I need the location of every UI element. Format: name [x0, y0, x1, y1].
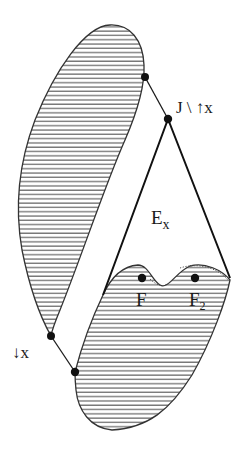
down-x-dot — [47, 332, 55, 340]
E_x-label: Ex — [151, 207, 170, 232]
F2-dot — [191, 274, 199, 282]
E-label: E — [151, 207, 163, 228]
J-up-x-label: J \ ↑x — [176, 98, 213, 117]
upper-junction-dot — [141, 73, 149, 81]
F2-subscript: 2 — [200, 299, 206, 313]
diagram-canvas: J \ ↑x Ex F F2 ↓x — [0, 0, 245, 451]
E-subscript: x — [163, 217, 170, 232]
F-label: F — [136, 289, 147, 310]
J-dot — [164, 115, 172, 123]
lower-hatched-region — [75, 265, 230, 430]
down-x-label: ↓x — [12, 343, 30, 362]
lower-connector-line — [51, 336, 75, 372]
F2-base: F — [189, 289, 200, 310]
upper-connector-line — [145, 77, 168, 119]
lower-junction-dot — [71, 368, 79, 376]
diagram-svg: J \ ↑x Ex F F2 ↓x — [0, 0, 245, 451]
F-dot — [138, 274, 146, 282]
